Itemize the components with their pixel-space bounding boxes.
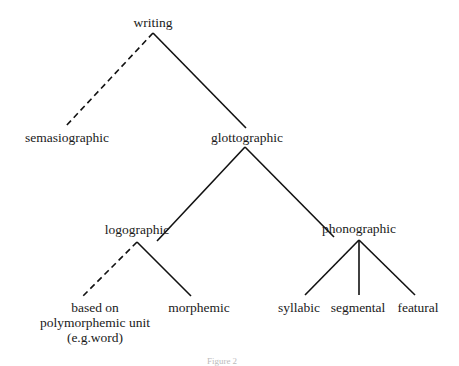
node-morphemic: morphemic — [168, 300, 229, 315]
node-logographic: logographic — [105, 222, 169, 237]
node-writing: writing — [134, 15, 173, 30]
polymorphemic-line-3: (e.g.word) — [40, 330, 150, 345]
node-syllabic: syllabic — [278, 300, 320, 315]
edge-logographic-morphemic — [137, 242, 191, 296]
edge-glottographic-logographic — [157, 147, 245, 241]
edge-writing-glottographic — [153, 33, 246, 128]
edge-phonographic-featural — [359, 240, 415, 295]
node-segmental: segmental — [331, 300, 386, 315]
node-phonographic: phonographic — [322, 221, 396, 236]
node-featural: featural — [397, 300, 438, 315]
polymorphemic-line-2: polymorphemic unit — [40, 315, 150, 330]
edge-logographic-polymorphemic — [83, 242, 137, 296]
figure-caption: Figure 2 — [207, 356, 237, 366]
node-polymorphemic-unit: based on polymorphemic unit (e.g.word) — [40, 300, 150, 345]
node-semasiographic: semasiographic — [25, 130, 109, 145]
edge-phonographic-syllabic — [305, 240, 359, 295]
polymorphemic-line-1: based on — [40, 300, 150, 315]
node-glottographic: glottographic — [211, 130, 283, 145]
edge-glottographic-phonographic — [245, 147, 334, 237]
edge-writing-semasiographic — [65, 33, 153, 127]
